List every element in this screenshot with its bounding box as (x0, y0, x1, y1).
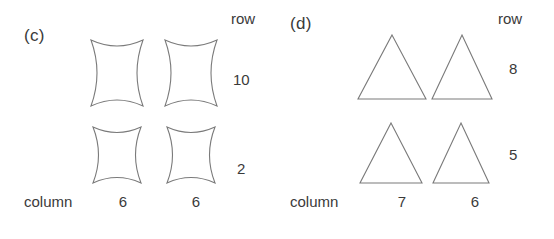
panel-d-shape-r0c1 (429, 32, 495, 102)
panel-c-label: (c) (24, 26, 45, 46)
panel-c-row-value-0: 10 (233, 71, 250, 88)
panel-d-column-value-1: 6 (463, 193, 487, 210)
panel-d-row-value-0: 8 (509, 60, 517, 77)
panel-d-row-header: row (498, 10, 522, 27)
panel-d-shape-r1c0 (357, 120, 425, 186)
panel-c-shape-r1c1 (162, 124, 220, 186)
panel-d-column-header: column (290, 193, 338, 210)
panel-c-column-value-0: 6 (111, 193, 135, 210)
panel-c-shape-r0c1 (160, 36, 222, 110)
panel-d-shape-r0c0 (355, 32, 429, 102)
panel-d: (d) row column 8 5 7 6 (277, 0, 554, 239)
panel-d-column-value-0: 7 (390, 193, 414, 210)
panel-c-shape-r1c0 (88, 124, 146, 186)
panel-c-row-value-1: 2 (237, 160, 245, 177)
panel-d-label: (d) (290, 14, 312, 34)
panel-c: (c) row column 10 2 6 6 (0, 0, 277, 239)
panel-c-shape-r0c0 (85, 36, 149, 110)
panel-c-column-header: column (24, 193, 72, 210)
panel-c-row-header: row (231, 10, 255, 27)
panel-c-column-value-1: 6 (184, 193, 208, 210)
panel-d-shape-r1c1 (430, 120, 492, 186)
panel-d-row-value-1: 5 (509, 146, 517, 163)
figure-container: (c) row column 10 2 6 6 (0, 0, 554, 239)
